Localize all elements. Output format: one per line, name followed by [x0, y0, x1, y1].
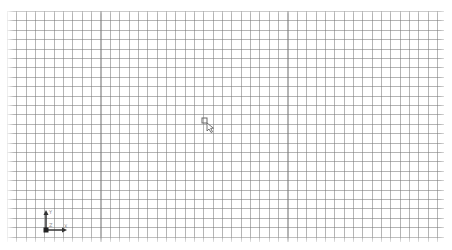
- sketch-canvas[interactable]: Y X Z: [0, 0, 452, 250]
- axis-triad-icon: [36, 206, 76, 238]
- grid-edge-fade: [0, 0, 14, 250]
- x-axis-label: X: [64, 223, 67, 229]
- grid-edge-fade: [0, 0, 452, 14]
- mouse-cursor-icon: [199, 115, 215, 133]
- grid-edge-fade: [0, 236, 452, 250]
- axis-indicator: Y X Z: [36, 206, 76, 238]
- grid-edge-fade: [440, 0, 452, 250]
- z-axis-label: Z: [49, 222, 52, 228]
- y-axis-label: Y: [49, 209, 52, 215]
